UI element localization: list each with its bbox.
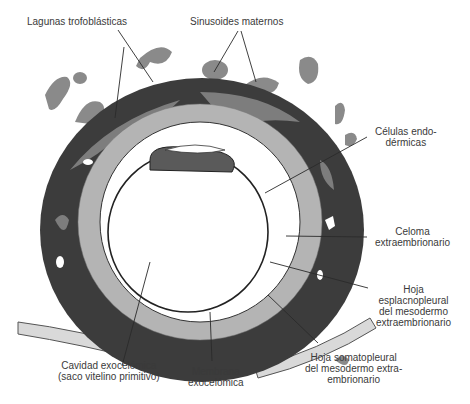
- label-sinusoides-maternos: Sinusoides maternos: [190, 16, 283, 27]
- label-celoma-extraembrionario: Celoma extraembrionario: [375, 226, 450, 248]
- label-lagunas-trofoblasticas: Lagunas trofoblásticas: [27, 16, 127, 27]
- label-membrana-exocelomica: Membrana exocelómica: [188, 366, 244, 388]
- label-celulas-endodermicas: Células endo- dérmicas: [375, 126, 437, 148]
- label-cavidad-exocelomica: Cavidad exocelómica (saco vitelino primi…: [58, 360, 160, 382]
- label-hoja-esplacnopleural: Hoja esplacnopleural del mesodermo extra…: [376, 284, 451, 328]
- exocoelomic-cavity: [108, 152, 268, 312]
- embryo-diagram: [0, 0, 470, 404]
- label-hoja-somatopleural: Hoja somatopleural del mesodermo extra- …: [305, 352, 402, 385]
